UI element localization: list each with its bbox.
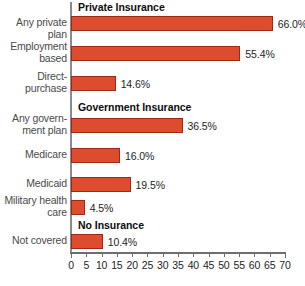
bar-value-label: 55.4% <box>245 48 274 60</box>
x-axis-tick <box>209 252 210 257</box>
x-axis-tick-label: 40 <box>188 259 199 271</box>
x-axis-tick-label: 70 <box>279 259 290 271</box>
x-axis-tick <box>178 252 179 257</box>
bar-value-label: 4.5% <box>90 202 114 214</box>
x-axis-tick-label: 65 <box>264 259 275 271</box>
x-axis-tick-label: 55 <box>234 259 245 271</box>
x-axis-tick <box>270 252 271 257</box>
x-axis-tick <box>132 252 133 257</box>
x-axis-tick-label: 0 <box>68 259 74 271</box>
category-label: Not covered <box>0 235 67 247</box>
bar-value-label: 19.5% <box>136 179 165 191</box>
x-axis-tick-label: 10 <box>96 259 107 271</box>
bar <box>71 177 131 192</box>
x-axis-tick-label: 25 <box>142 259 153 271</box>
x-axis-tick <box>193 252 194 257</box>
x-axis-tick-label: 35 <box>172 259 183 271</box>
x-axis-tick <box>285 252 286 258</box>
bar-value-label: 10.4% <box>108 236 137 248</box>
x-axis-tick <box>224 252 225 257</box>
bar-chart: 66.0%55.4%14.6%36.5%16.0%19.5%4.5%10.4% … <box>0 0 305 286</box>
x-axis-tick <box>163 252 164 257</box>
bar <box>71 76 116 91</box>
bar <box>71 16 273 31</box>
x-axis-tick-label: 50 <box>218 259 229 271</box>
x-axis-tick <box>117 252 118 257</box>
x-axis-tick <box>147 252 148 257</box>
bar-value-label: 16.0% <box>125 150 154 162</box>
x-axis-tick-label: 15 <box>111 259 122 271</box>
category-label: Any govern- ment plan <box>0 113 67 136</box>
x-axis-tick <box>71 252 72 258</box>
x-axis-tick-label: 5 <box>83 259 89 271</box>
x-axis-tick-label: 45 <box>203 259 214 271</box>
group-header: No Insurance <box>78 219 144 231</box>
group-header: Private Insurance <box>78 1 165 13</box>
x-axis-tick <box>86 252 87 257</box>
category-label: Military health care <box>0 195 67 218</box>
bar <box>71 118 183 133</box>
category-label: Medicaid <box>0 178 67 190</box>
bar <box>71 148 120 163</box>
category-label: Employment based <box>0 41 67 64</box>
x-axis-tick <box>102 252 103 257</box>
category-label: Direct- purchase <box>0 71 67 94</box>
bar <box>71 46 240 61</box>
bar <box>71 234 103 249</box>
x-axis-tick-label: 60 <box>249 259 260 271</box>
bar-value-label: 14.6% <box>121 78 150 90</box>
x-axis-tick <box>239 252 240 257</box>
bar-value-label: 36.5% <box>188 120 217 132</box>
x-axis-tick-label: 30 <box>157 259 168 271</box>
x-axis-tick <box>254 252 255 257</box>
category-label: Medicare <box>0 149 67 161</box>
x-axis-tick-label: 20 <box>127 259 138 271</box>
category-label: Any private plan <box>0 17 67 40</box>
plot-area: 66.0%55.4%14.6%36.5%16.0%19.5%4.5%10.4% … <box>0 0 305 286</box>
bar <box>71 200 85 215</box>
bar-value-label: 66.0% <box>278 18 305 30</box>
group-header: Government Insurance <box>78 101 191 113</box>
